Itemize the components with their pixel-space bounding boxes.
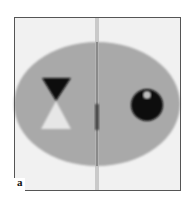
panel-label: a bbox=[17, 177, 23, 188]
dark-bar bbox=[95, 104, 99, 130]
figure-panel: a bbox=[0, 0, 191, 202]
phantom-image bbox=[0, 0, 191, 202]
disc-highlight bbox=[143, 91, 151, 99]
